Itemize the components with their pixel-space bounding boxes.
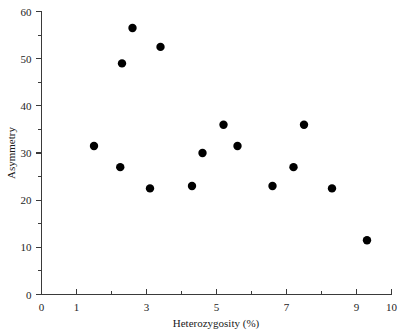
x-tick-label: 9 [354, 301, 360, 313]
data-point [188, 182, 196, 190]
data-point [363, 236, 371, 244]
y-tick-label: 0 [26, 289, 32, 301]
data-point [146, 184, 154, 192]
data-point [219, 121, 227, 129]
data-point [116, 163, 124, 171]
data-point [328, 184, 336, 192]
x-tick-label: 10 [386, 301, 398, 313]
y-tick-label: 50 [21, 53, 33, 65]
data-point [198, 149, 206, 157]
y-tick-label: 40 [21, 100, 33, 112]
x-axis-title: Heterozygosity (%) [173, 317, 260, 330]
data-point [268, 182, 276, 190]
y-tick-label: 30 [21, 147, 33, 159]
data-point [90, 142, 98, 150]
scatter-plot-figure: 0102030405060 01357910 Heterozygosity (%… [0, 0, 402, 334]
x-tick-label: 1 [74, 301, 80, 313]
data-point [289, 163, 297, 171]
x-tick-label: 5 [214, 301, 220, 313]
y-axis-title: Asymmetry [5, 127, 17, 179]
data-point [300, 121, 308, 129]
data-point [233, 142, 241, 150]
data-point [156, 43, 164, 51]
y-tick-label: 10 [21, 241, 33, 253]
y-tick-label: 20 [21, 194, 33, 206]
x-tick-label: 3 [144, 301, 150, 313]
data-point [128, 24, 136, 32]
x-tick-label: 0 [39, 301, 45, 313]
x-tick-label: 7 [284, 301, 290, 313]
data-point [118, 59, 126, 67]
y-tick-label: 60 [21, 6, 33, 18]
plot-background [0, 0, 402, 334]
plot-canvas: 0102030405060 01357910 Heterozygosity (%… [0, 0, 402, 334]
